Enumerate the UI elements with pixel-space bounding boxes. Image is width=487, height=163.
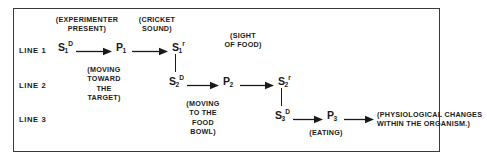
annotation-moving-toward-target: (MOVING TOWARD THE TARGET) <box>72 65 136 102</box>
line-label-1: LINE 1 <box>19 46 46 55</box>
annotation-moving-to-food-bowl: (MOVING TO THE FOOD BOWL) <box>169 99 237 136</box>
term-s1r: S1r <box>172 41 185 53</box>
arrow-p3-to-outcome <box>344 115 374 124</box>
term-s2d-base: S <box>169 75 176 87</box>
term-s1d-base: S <box>58 41 65 53</box>
arrow-p1-to-s1r <box>132 47 168 56</box>
diagram-frame: (EXPERIMENTER PRESENT) (CRICKET SOUND) (… <box>13 8 440 152</box>
term-p1-base: P <box>116 41 123 53</box>
arrow-s2d-to-p2 <box>187 81 219 90</box>
arrow-s3d-to-p3 <box>293 115 323 124</box>
term-p2-sub: 2 <box>230 81 234 88</box>
term-s1d-sup: D <box>68 40 73 47</box>
term-p1-sub: 1 <box>123 47 127 54</box>
term-s3d-sub: 3 <box>282 115 286 122</box>
term-p2-base: P <box>223 75 230 87</box>
term-s3d: S3D <box>275 109 290 121</box>
annotation-experimenter-present: (EXPERIMENTER PRESENT) <box>42 15 132 34</box>
term-s3d-sup: D <box>285 108 290 115</box>
term-s2d-sup: D <box>179 74 184 81</box>
term-s1r-sup: r <box>182 40 185 47</box>
line-label-3: LINE 3 <box>19 115 46 124</box>
term-s1r-sub: 1 <box>179 47 183 54</box>
term-s1r-base: S <box>172 41 179 53</box>
arrow-p2-to-s2r <box>240 81 274 90</box>
connector-s1r-to-s2d <box>175 54 176 72</box>
annotation-sight-of-food: (SIGHT OF FOOD) <box>206 31 280 50</box>
term-s2d-sub: 2 <box>176 81 180 88</box>
term-s2r-sup: r <box>288 74 291 81</box>
connector-s2r-to-s3d <box>281 88 282 106</box>
term-p3-base: P <box>327 109 334 121</box>
term-s1d-sub: 1 <box>65 47 69 54</box>
term-s2r: S2r <box>278 75 291 87</box>
term-s2r-base: S <box>278 75 285 87</box>
term-s1d: S1D <box>58 41 73 53</box>
annotation-physiological-changes: (PHYSIOLOGICAL CHANGES WITHIN THE ORGANI… <box>377 110 487 129</box>
term-s3d-base: S <box>275 109 282 121</box>
annotation-eating: (EATING) <box>294 128 358 137</box>
line-label-2: LINE 2 <box>19 81 46 90</box>
annotation-cricket-sound: (CRICKET SOUND) <box>122 15 192 34</box>
arrow-s1d-to-p1 <box>76 47 112 56</box>
term-p2: P2 <box>223 75 234 87</box>
term-s2d: S2D <box>169 75 184 87</box>
term-p1: P1 <box>116 41 127 53</box>
term-p3-sub: 3 <box>334 115 338 122</box>
term-s2r-sub: 2 <box>285 81 289 88</box>
term-p3: P3 <box>327 109 338 121</box>
